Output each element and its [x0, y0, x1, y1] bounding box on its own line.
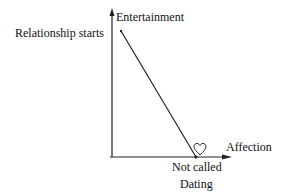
end-point	[194, 155, 197, 158]
x-axis-label: Affection	[226, 141, 272, 153]
heart-outline-icon	[194, 144, 206, 156]
start-label: Relationship starts	[15, 27, 104, 39]
x-axis	[110, 155, 232, 160]
end-label-line1: Not called	[172, 161, 222, 173]
y-axis-label: Entertainment	[116, 11, 184, 23]
start-point	[120, 30, 122, 32]
end-label-line2: Dating	[180, 178, 213, 190]
decline-line	[121, 31, 196, 157]
x-axis-arrowhead-icon	[222, 155, 232, 160]
y-axis-arrowhead-icon	[110, 8, 115, 16]
y-axis	[110, 8, 115, 157]
